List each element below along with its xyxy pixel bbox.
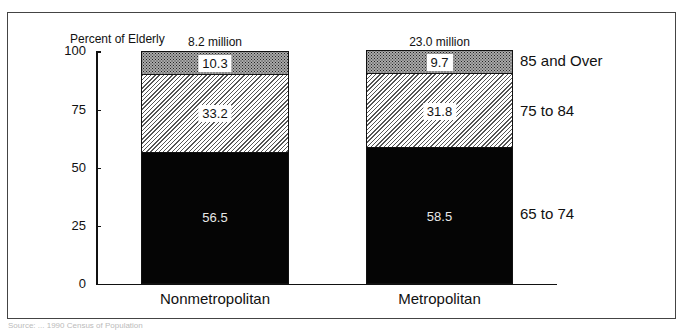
tick-label-50: 50 (56, 161, 86, 175)
value-label: 58.5 (423, 208, 456, 225)
tick-75 (96, 110, 101, 112)
value-label: 10.3 (198, 55, 231, 72)
segment-65-to-74: 56.5 (142, 153, 288, 283)
legend-75-to-84: 75 to 84 (520, 102, 574, 119)
category-label-metropolitan: Metropolitan (356, 290, 523, 307)
value-label: 31.8 (423, 103, 456, 120)
bar-total-nonmetropolitan: 8.2 million (141, 35, 289, 49)
segment-85-and-over: 9.7 (367, 51, 512, 74)
bar-total-metropolitan: 23.0 million (366, 35, 513, 49)
legend-85-and-over: 85 and Over (520, 52, 603, 69)
category-label-nonmetropolitan: Nonmetropolitan (131, 290, 299, 307)
source-caption: Source: ... 1990 Census of Population (8, 321, 143, 330)
value-label: 56.5 (198, 209, 231, 226)
legend-65-to-74: 65 to 74 (520, 205, 574, 222)
tick-label-100: 100 (56, 44, 86, 58)
tick-100 (96, 51, 101, 53)
value-label: 9.7 (426, 54, 452, 71)
tick-label-0: 0 (56, 277, 86, 291)
tick-label-75: 75 (56, 103, 86, 117)
segment-65-to-74: 58.5 (367, 148, 512, 283)
segment-75-to-84: 31.8 (367, 74, 512, 148)
value-label: 33.2 (198, 105, 231, 122)
tick-50 (96, 168, 101, 170)
segment-75-to-84: 33.2 (142, 75, 288, 153)
bar-nonmetropolitan: 10.3 33.2 56.5 (141, 51, 289, 284)
tick-25 (96, 226, 101, 228)
bar-metropolitan: 9.7 31.8 58.5 (366, 50, 513, 284)
tick-label-25: 25 (56, 219, 86, 233)
segment-85-and-over: 10.3 (142, 52, 288, 75)
